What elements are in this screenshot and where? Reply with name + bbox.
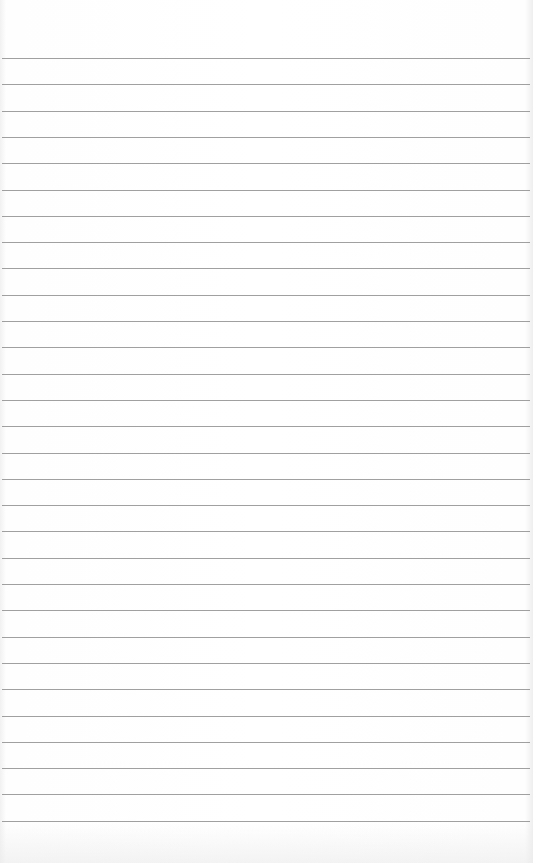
- ruled-line: [2, 321, 530, 322]
- ruled-line: [2, 637, 530, 638]
- paper-bottom-shadow: [0, 823, 533, 863]
- ruled-line: [2, 347, 530, 348]
- ruled-line: [2, 295, 530, 296]
- ruled-line: [2, 479, 530, 480]
- ruled-line: [2, 742, 530, 743]
- ruled-line: [2, 111, 530, 112]
- ruled-line: [2, 531, 530, 532]
- ruled-line: [2, 453, 530, 454]
- ruled-line: [2, 689, 530, 690]
- ruled-line: [2, 400, 530, 401]
- ruled-line: [2, 768, 530, 769]
- ruled-line: [2, 58, 530, 59]
- ruled-line: [2, 374, 530, 375]
- ruled-line: [2, 584, 530, 585]
- ruled-line: [2, 505, 530, 506]
- ruled-line: [2, 216, 530, 217]
- ruled-line: [2, 190, 530, 191]
- ruled-line: [2, 610, 530, 611]
- ruled-line: [2, 268, 530, 269]
- ruled-line: [2, 84, 530, 85]
- ruled-line: [2, 794, 530, 795]
- ruled-line: [2, 163, 530, 164]
- ruled-line: [2, 821, 530, 822]
- ruled-line: [2, 242, 530, 243]
- ruled-line: [2, 716, 530, 717]
- ruled-line: [2, 663, 530, 664]
- ruled-line: [2, 426, 530, 427]
- ruled-line: [2, 137, 530, 138]
- ruled-line: [2, 558, 530, 559]
- lined-paper-sheet: [0, 0, 533, 863]
